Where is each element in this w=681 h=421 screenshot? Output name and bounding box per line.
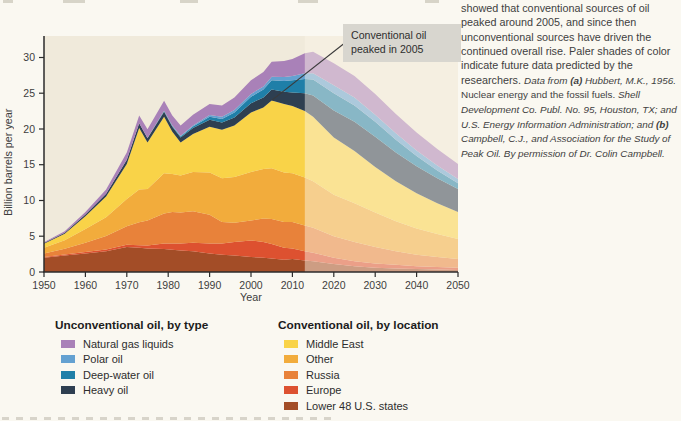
swatch-heavy-oil — [61, 386, 75, 394]
y-tick-label: 0 — [29, 266, 35, 278]
x-tick-label: 1990 — [198, 279, 222, 291]
swatch-europe — [284, 386, 298, 394]
x-tick-label: 2050 — [446, 279, 470, 291]
swatch-lower-48 — [284, 402, 298, 410]
citation-ref-a: (a) — [570, 75, 582, 86]
legend-item-heavy-oil: Heavy oil — [55, 383, 208, 399]
legend-label: Middle East — [306, 338, 363, 350]
citation-ref-b: (b) — [656, 119, 669, 130]
legend-item-other: Other — [278, 352, 439, 368]
legend-label: Natural gas liquids — [83, 338, 174, 350]
legend-label: Deep-water oil — [83, 369, 154, 381]
citation-text: Data from — [524, 75, 570, 86]
x-tick-label: 2020 — [322, 279, 346, 291]
cropped-text-bottom — [2, 417, 337, 420]
x-tick-label: 1960 — [74, 279, 98, 291]
swatch-deep-water-oil — [61, 371, 75, 379]
legend-item-russia: Russia — [278, 367, 439, 383]
x-axis-title: Year — [44, 291, 458, 303]
caption-citation: Data from (a) Hubbert, M.K., 1956. Nucle… — [461, 75, 677, 159]
y-tick-label: 10 — [23, 194, 35, 206]
y-tick-label: 5 — [29, 230, 35, 242]
legend-item-natural-gas-liquids: Natural gas liquids — [55, 336, 208, 352]
x-tick-label: 1970 — [115, 279, 139, 291]
citation-text: Nuclear energy and the fossil fuels. — [461, 89, 618, 100]
legend-item-deep-water-oil: Deep-water oil — [55, 367, 208, 383]
future-prediction-overlay — [305, 36, 458, 272]
legend-label: Europe — [306, 384, 341, 396]
y-tick-label: 20 — [23, 123, 35, 135]
legend-item-middle-east: Middle East — [278, 336, 439, 352]
caption-body: showed that conventional sources of oil … — [461, 2, 670, 86]
figure-caption: showed that conventional sources of oil … — [461, 1, 679, 161]
legend-item-polar-oil: Polar oil — [55, 352, 208, 368]
legend-conventional: Conventional oil, by location Middle Eas… — [278, 318, 439, 414]
legend-title: Unconventional oil, by type — [55, 318, 208, 332]
x-tick-label: 1950 — [32, 279, 56, 291]
y-tick-label: 25 — [23, 87, 35, 99]
x-tick-label: 2000 — [239, 279, 263, 291]
x-tick-label: 2030 — [364, 279, 388, 291]
swatch-other — [284, 355, 298, 363]
citation-text: Hubbert, M.K., 1956. — [582, 75, 676, 86]
y-tick-label: 15 — [23, 158, 35, 170]
legend-label: Russia — [306, 369, 340, 381]
swatch-natural-gas-liquids — [61, 340, 75, 348]
citation-text: Campbell, C.J., and Association for the … — [461, 133, 670, 159]
legend-label: Heavy oil — [83, 384, 128, 396]
legend-title: Conventional oil, by location — [278, 318, 439, 332]
swatch-russia — [284, 371, 298, 379]
y-tick-label: 30 — [23, 51, 35, 63]
figure-page: 0510152025301950196019701980199020002010… — [0, 0, 681, 421]
x-tick-label: 1980 — [157, 279, 181, 291]
swatch-middle-east — [284, 340, 298, 348]
legend-item-europe: Europe — [278, 383, 439, 399]
x-tick-label: 2040 — [405, 279, 429, 291]
legend-label: Polar oil — [83, 353, 123, 365]
legend-label: Other — [306, 353, 334, 365]
y-axis-title: Billion barrels per year — [2, 60, 18, 265]
legend-unconventional: Unconventional oil, by type Natural gas … — [55, 318, 208, 398]
legend-label: Lower 48 U.S. states — [306, 400, 408, 412]
annotation-callout: Conventional oil peaked in 2005 — [343, 24, 461, 62]
swatch-polar-oil — [61, 355, 75, 363]
legend-item-lower-48: Lower 48 U.S. states — [278, 398, 439, 414]
x-tick-label: 2010 — [281, 279, 305, 291]
